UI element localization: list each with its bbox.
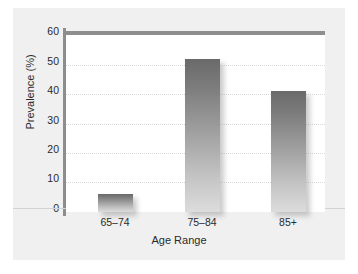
y-tick-20: 20	[29, 144, 59, 155]
x-tick-75-84: 75–84	[187, 216, 216, 228]
x-tick-65-74: 65–74	[100, 216, 129, 228]
y-tick-50: 50	[29, 55, 59, 66]
y-tick-60: 60	[29, 26, 59, 37]
bar-75-84	[185, 59, 220, 212]
x-axis-label: Age Range	[13, 234, 345, 246]
y-tick-30: 30	[29, 114, 59, 125]
bar-85-plus	[271, 91, 306, 212]
bar-65-74	[98, 194, 133, 212]
y-tick-40: 40	[29, 85, 59, 96]
chart-figure: Prevalence (%) 0 10 20 30 40 50 60 65–74…	[13, 8, 345, 260]
y-tick-10: 10	[29, 173, 59, 184]
y-axis-ticks: 0 10 20 30 40 50 60	[21, 31, 59, 208]
plot-area	[66, 31, 325, 212]
x-tick-85-plus: 85+	[279, 216, 297, 228]
